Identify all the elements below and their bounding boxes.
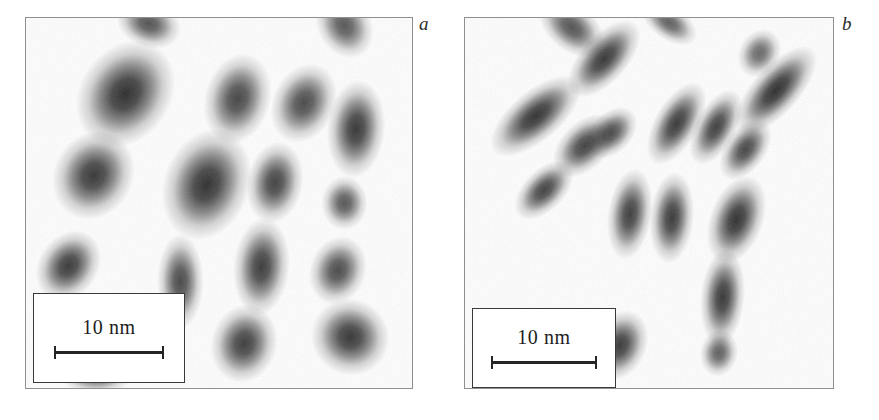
scalebar-cap-left bbox=[54, 346, 56, 359]
scalebar-rule bbox=[54, 346, 164, 359]
panel-label-a: a bbox=[419, 14, 429, 33]
scalebar-cap-right bbox=[162, 346, 164, 359]
panel-label-b: b bbox=[842, 14, 852, 33]
scalebar-cap-right bbox=[595, 356, 597, 369]
micrograph-panel-a: 10 nm bbox=[25, 17, 413, 389]
scalebar-box-panel-b: 10 nm bbox=[472, 308, 616, 388]
scalebar-line bbox=[491, 361, 597, 363]
scalebar-line bbox=[54, 351, 164, 353]
scalebar-rule bbox=[491, 356, 597, 369]
micrograph-panel-b: 10 nm bbox=[464, 17, 834, 389]
scalebar-label: 10 nm bbox=[82, 317, 136, 337]
scalebar-box-panel-a: 10 nm bbox=[33, 293, 185, 383]
scalebar-label: 10 nm bbox=[517, 327, 571, 347]
scalebar-cap-left bbox=[491, 356, 493, 369]
figure-root: 10 nma10 nmb bbox=[0, 0, 879, 420]
